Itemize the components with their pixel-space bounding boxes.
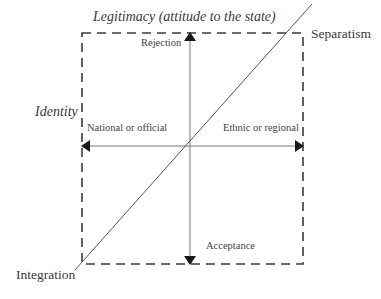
acceptance-label: Acceptance [206, 240, 255, 251]
national-or-official-label: National or official [87, 122, 167, 133]
diagram-graphics [0, 0, 381, 299]
identity-axis-title: Identity [35, 104, 78, 120]
ethnic-or-regional-label: Ethnic or regional [223, 122, 299, 133]
integration-separatism-diagonal [75, 4, 312, 270]
legitimacy-identity-diagram: Legitimacy (attitude to the state) Ident… [0, 0, 381, 299]
dashed-frame [82, 33, 303, 264]
separatism-label: Separatism [311, 26, 371, 42]
rejection-label: Rejection [141, 37, 181, 48]
legitimacy-axis-title: Legitimacy (attitude to the state) [93, 9, 276, 25]
integration-label: Integration [16, 267, 75, 283]
